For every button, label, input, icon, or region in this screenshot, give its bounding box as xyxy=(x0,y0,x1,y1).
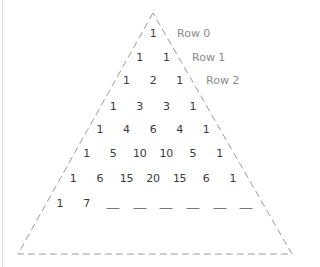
triangle-entry: 1 xyxy=(57,197,64,210)
row-label: Row 0 xyxy=(177,27,210,40)
triangle-entry: 4 xyxy=(123,123,130,136)
blank-entry xyxy=(107,208,120,209)
triangle-entry: 1 xyxy=(136,51,143,64)
triangle-entry: 20 xyxy=(146,172,159,185)
triangle-entry: 1 xyxy=(216,147,223,160)
triangle-entry: 1 xyxy=(83,147,90,160)
triangle-entry: 6 xyxy=(203,172,210,185)
blank-entry xyxy=(133,208,146,209)
triangle-entry: 3 xyxy=(163,100,170,113)
triangle-entry: 1 xyxy=(190,100,197,113)
triangle-entry: 1 xyxy=(163,51,170,64)
triangle-entry: 1 xyxy=(150,27,157,40)
triangle-entry: 5 xyxy=(110,147,117,160)
triangle-entry: 15 xyxy=(173,172,186,185)
triangle-entry: 15 xyxy=(120,172,133,185)
blank-entry xyxy=(160,208,173,209)
row-label: Row 2 xyxy=(206,74,239,87)
triangle-entry: 1 xyxy=(110,100,117,113)
triangle-entry: 6 xyxy=(150,123,157,136)
triangle-entry: 1 xyxy=(70,172,77,185)
triangle-entry: 1 xyxy=(176,74,183,87)
triangle-entry: 1 xyxy=(96,123,103,136)
blank-entry xyxy=(240,208,253,209)
triangle-entry: 6 xyxy=(96,172,103,185)
triangle-entry: 3 xyxy=(136,100,143,113)
triangle-entry: 1 xyxy=(229,172,236,185)
triangle-entry: 4 xyxy=(176,123,183,136)
triangle-entry: 5 xyxy=(190,147,197,160)
triangle-entry: 7 xyxy=(83,197,90,210)
blank-entry xyxy=(186,208,199,209)
triangle-entry: 10 xyxy=(133,147,146,160)
triangle-entry: 10 xyxy=(160,147,173,160)
triangle-entry: 1 xyxy=(123,74,130,87)
triangle-entry: 2 xyxy=(150,74,157,87)
blank-entry xyxy=(213,208,226,209)
row-label: Row 1 xyxy=(192,51,225,64)
triangle-entry: 1 xyxy=(203,123,210,136)
